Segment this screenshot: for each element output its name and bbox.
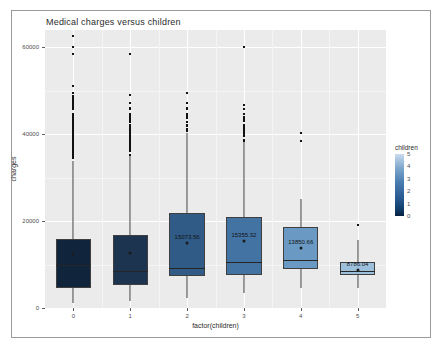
- y-axis-tick-label: 0: [0, 305, 39, 311]
- y-axis-tick-label: 40000: [0, 131, 39, 137]
- outlier-point: [129, 108, 131, 110]
- chart-title: Medical charges versus children: [46, 17, 181, 27]
- outlier-point: [243, 135, 245, 137]
- gridline-minor-vertical: [216, 30, 217, 308]
- boxplot-box: 8786.04: [340, 30, 375, 308]
- outlier-point: [72, 35, 74, 37]
- y-axis-tick-mark: [42, 47, 45, 48]
- gridline-minor-vertical: [329, 30, 330, 308]
- x-axis-tick-label: 2: [185, 313, 188, 319]
- boxplot-mean-point: [129, 251, 132, 254]
- boxplot-iqr-rect: [226, 217, 261, 276]
- gridline-minor-vertical: [272, 30, 273, 308]
- boxplot-iqr-rect: [113, 235, 148, 285]
- outlier-point: [72, 53, 74, 55]
- gridline-minor-vertical: [159, 30, 160, 308]
- x-axis-tick-mark: [301, 308, 302, 311]
- outlier-point: [72, 46, 74, 48]
- x-axis-tick-mark: [73, 308, 74, 311]
- outlier-point: [72, 85, 74, 87]
- x-axis-tick-label: 3: [242, 313, 245, 319]
- outlier-point: [129, 94, 131, 96]
- legend-tick-label: 5: [407, 151, 410, 157]
- outlier-point: [129, 53, 131, 55]
- x-axis-title: factor(children): [45, 322, 386, 329]
- legend-tick-label: 0: [407, 213, 410, 219]
- outlier-point: [129, 150, 131, 152]
- outlier-point: [129, 102, 131, 104]
- chart-screenshot: Medical charges versus children 15073.56…: [0, 0, 444, 349]
- legend-tick-mark: [404, 204, 406, 205]
- legend-tick-label: 2: [407, 188, 410, 194]
- boxplot-box: [113, 30, 148, 308]
- boxplot-mean-label: 13850.66: [288, 239, 313, 245]
- plot-panel: 15073.5615355.3213850.668786.04: [45, 30, 386, 308]
- outlier-point: [243, 120, 245, 122]
- legend-tick-label: 1: [407, 201, 410, 207]
- boxplot-median-line: [169, 268, 204, 269]
- outlier-point: [243, 104, 245, 106]
- boxplot-box: 15355.32: [226, 30, 261, 308]
- legend-tick-mark: [404, 166, 406, 167]
- x-axis-tick-label: 4: [299, 313, 302, 319]
- legend: children 012345: [395, 144, 418, 216]
- outlier-point: [300, 140, 302, 142]
- boxplot-mean-point: [186, 241, 189, 244]
- outlier-point: [72, 157, 74, 159]
- legend-tick-list: 012345: [404, 154, 418, 216]
- boxplot-mean-label: 15073.56: [175, 234, 200, 240]
- boxplot-median-line: [113, 271, 148, 272]
- outlier-point: [129, 154, 131, 156]
- legend-title: children: [395, 144, 418, 151]
- boxplot-box: [56, 30, 91, 308]
- outlier-point: [243, 113, 245, 115]
- boxplot-mean-point: [299, 246, 302, 249]
- y-axis-tick-mark: [42, 134, 45, 135]
- outlier-point: [243, 140, 245, 142]
- outlier-point: [72, 92, 74, 94]
- legend-colorbar-group: 012345: [395, 154, 418, 216]
- outlier-point: [243, 46, 245, 48]
- boxplot-iqr-rect: [169, 213, 204, 276]
- outlier-point: [72, 108, 74, 110]
- y-axis-title: charges: [10, 157, 17, 182]
- legend-tick-mark: [404, 154, 406, 155]
- legend-tick-mark: [404, 179, 406, 180]
- outlier-point: [129, 121, 131, 123]
- gridline-minor-vertical: [102, 30, 103, 308]
- legend-tick-label: 4: [407, 163, 410, 169]
- outlier-point: [357, 224, 359, 226]
- boxplot-iqr-rect: [56, 239, 91, 289]
- x-axis-tick-mark: [130, 308, 131, 311]
- y-axis-tick-mark: [42, 308, 45, 309]
- x-axis-tick-mark: [187, 308, 188, 311]
- boxplot-box: 15073.56: [169, 30, 204, 308]
- x-axis-tick-mark: [244, 308, 245, 311]
- outlier-point: [186, 117, 188, 119]
- legend-tick-mark: [404, 191, 406, 192]
- boxplot-box: 13850.66: [283, 30, 318, 308]
- y-axis-tick-mark: [42, 221, 45, 222]
- legend-colorbar: [395, 154, 404, 216]
- outlier-point: [186, 102, 188, 104]
- boxplot-mean-point: [242, 240, 245, 243]
- legend-tick-mark: [404, 216, 406, 217]
- boxplot-mean-point: [356, 268, 359, 271]
- x-axis-tick-label: 1: [129, 313, 132, 319]
- x-axis-tick-mark: [358, 308, 359, 311]
- boxplot-median-line: [283, 260, 318, 261]
- x-axis-tick-label: 0: [72, 313, 75, 319]
- outlier-point: [300, 132, 302, 134]
- outlier-point: [186, 125, 188, 127]
- outlier-point: [186, 130, 188, 132]
- outlier-point: [186, 92, 188, 94]
- boxplot-mean-label: 8786.04: [347, 261, 369, 267]
- y-axis-tick-label: 20000: [0, 218, 39, 224]
- outlier-point: [186, 108, 188, 110]
- x-axis-tick-label: 5: [356, 313, 359, 319]
- legend-tick-label: 3: [407, 176, 410, 182]
- outlier-point: [243, 108, 245, 110]
- boxplot-mean-label: 15355.32: [231, 232, 256, 238]
- y-axis-tick-label: 60000: [0, 44, 39, 50]
- boxplot-mean-point: [72, 253, 75, 256]
